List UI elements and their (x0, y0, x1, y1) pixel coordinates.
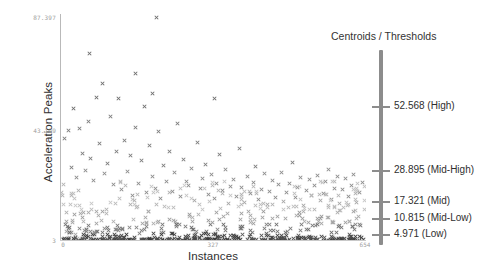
data-point (337, 201, 342, 206)
data-point (128, 153, 133, 158)
data-point (354, 188, 359, 193)
data-point (202, 238, 207, 241)
data-point (265, 202, 270, 207)
data-point (64, 210, 69, 215)
data-point (62, 136, 67, 141)
data-point (190, 215, 195, 220)
data-point (343, 176, 348, 181)
data-point (146, 237, 151, 240)
data-point (326, 215, 331, 220)
data-point (180, 238, 185, 241)
data-point (336, 238, 341, 241)
data-point (123, 238, 128, 241)
data-point (281, 237, 286, 240)
data-point (170, 189, 175, 194)
data-point (331, 220, 336, 225)
data-point (155, 237, 160, 240)
data-point (293, 195, 298, 200)
data-point (357, 238, 362, 241)
data-point (112, 237, 117, 241)
data-point (83, 168, 88, 173)
data-point (273, 195, 278, 200)
data-point (69, 230, 74, 235)
data-point (349, 234, 354, 239)
data-point (321, 191, 326, 196)
data-point (274, 222, 279, 227)
data-point (216, 236, 221, 240)
data-point (212, 96, 217, 101)
data-point (140, 237, 145, 240)
data-point (279, 236, 284, 240)
data-point (183, 224, 188, 229)
data-point (319, 234, 324, 239)
data-point (67, 235, 72, 240)
data-point (319, 221, 324, 226)
data-point (114, 149, 119, 154)
data-point (262, 226, 267, 231)
data-point (248, 220, 253, 225)
data-point (290, 160, 295, 165)
data-point (352, 237, 357, 240)
data-point (172, 232, 177, 237)
data-point (203, 231, 208, 236)
data-point (296, 237, 301, 240)
data-point (124, 232, 129, 237)
data-point (261, 209, 266, 214)
data-point (201, 231, 206, 236)
data-point (184, 235, 189, 240)
data-point (223, 238, 228, 241)
scatter-chart: Acceleration Peaks 87.397 43.199 3 0 327… (0, 0, 496, 276)
data-point (184, 179, 189, 184)
data-point (270, 235, 275, 240)
data-point (318, 179, 323, 184)
data-point (276, 182, 281, 187)
data-point (248, 232, 253, 237)
data-point (330, 220, 335, 225)
data-point (66, 238, 71, 241)
data-point (332, 179, 337, 184)
data-point (251, 221, 256, 226)
data-point (183, 234, 188, 239)
data-point (220, 188, 225, 193)
data-point (196, 212, 201, 217)
data-point (144, 224, 149, 229)
data-point (132, 235, 137, 240)
data-point (202, 238, 207, 241)
data-point (210, 180, 215, 185)
x-tick-0: 0 (48, 241, 78, 248)
data-point (99, 218, 104, 223)
data-point (171, 205, 176, 210)
data-point (353, 208, 358, 213)
data-point (318, 198, 323, 203)
data-point (265, 205, 270, 210)
data-point (99, 237, 104, 240)
data-point (112, 232, 117, 237)
data-point (254, 189, 259, 194)
data-point (150, 91, 155, 96)
data-point (337, 237, 342, 241)
data-point (350, 224, 355, 229)
data-point (181, 157, 186, 162)
data-point (278, 236, 283, 240)
data-point (252, 217, 257, 222)
data-point (303, 236, 308, 240)
data-point (210, 220, 215, 225)
data-point (297, 236, 302, 240)
data-point (232, 234, 237, 239)
data-point (292, 191, 297, 196)
data-point (340, 237, 345, 240)
data-point (357, 222, 362, 227)
data-point (78, 211, 83, 216)
data-point (309, 193, 314, 198)
data-point (348, 237, 353, 240)
data-point (192, 237, 197, 240)
data-point (351, 187, 356, 192)
data-point (190, 219, 195, 224)
legend-title: Centroids / Thresholds (331, 30, 436, 42)
data-point (146, 209, 151, 214)
data-point (315, 216, 320, 221)
data-point (326, 167, 331, 172)
data-point (340, 238, 345, 241)
data-point (302, 206, 307, 211)
data-point (173, 219, 178, 224)
